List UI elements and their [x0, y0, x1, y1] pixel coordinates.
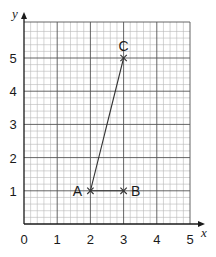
point-label-B: B: [131, 183, 140, 199]
x-axis-label: x: [200, 225, 207, 240]
x-tick-label: 0: [20, 232, 27, 247]
x-tick-label: 1: [54, 232, 61, 247]
y-tick-label: 3: [9, 117, 16, 132]
y-tick-label: 5: [9, 51, 16, 66]
x-tick-label: 2: [87, 232, 94, 247]
coordinate-grid-diagram: xy01234512345ABC: [0, 0, 216, 257]
y-axis-arrow-icon: [21, 12, 27, 19]
point-label-A: A: [73, 183, 83, 199]
x-tick-label: 5: [186, 232, 193, 247]
x-tick-label: 3: [120, 232, 127, 247]
y-tick-label: 2: [9, 151, 16, 166]
y-tick-label: 1: [9, 184, 16, 199]
y-axis-label: y: [10, 6, 18, 21]
y-tick-label: 4: [9, 84, 16, 99]
x-tick-label: 4: [153, 232, 160, 247]
point-label-C: C: [119, 38, 129, 54]
